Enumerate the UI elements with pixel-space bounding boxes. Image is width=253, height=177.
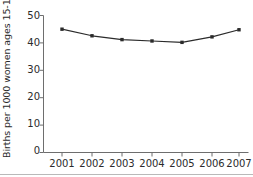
- data-point-marker: [90, 34, 93, 37]
- data-point-marker: [210, 35, 213, 38]
- bottom-divider: [0, 174, 253, 175]
- data-point-marker: [150, 39, 153, 42]
- chart-container: Births per 1000 women ages 15-19 50 40 3…: [0, 0, 253, 177]
- x-axis-ticks: [62, 153, 239, 157]
- data-series-births: [60, 28, 240, 45]
- plot-area: [0, 0, 253, 177]
- axis-spine: [44, 16, 249, 153]
- data-point-marker: [120, 38, 123, 41]
- data-point-marker: [180, 41, 183, 44]
- data-point-marker: [60, 28, 63, 31]
- data-point-marker: [237, 28, 240, 31]
- y-axis-ticks: [40, 16, 44, 153]
